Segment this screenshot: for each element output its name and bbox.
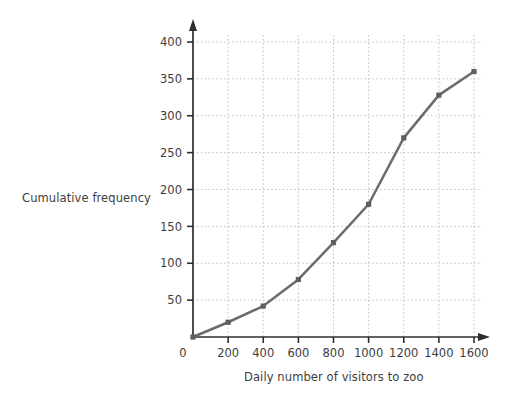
y-axis-ticks [187, 42, 193, 300]
data-point-marker [190, 334, 195, 339]
y-tick-label: 250 [160, 146, 182, 160]
y-tick-label: 100 [160, 256, 182, 270]
y-tick-label: 200 [160, 183, 182, 197]
x-tick-label: 1600 [459, 346, 488, 360]
y-axis-tick-labels: 50100150200250300350400 [160, 35, 182, 307]
y-tick-label: 50 [167, 293, 182, 307]
y-axis-arrowhead [189, 19, 197, 31]
data-point-marker [436, 93, 441, 98]
x-tick-label: 1200 [389, 346, 418, 360]
data-point-marker [261, 303, 266, 308]
data-point-marker [331, 240, 336, 245]
axis-lines [189, 19, 490, 341]
x-axis-tick-labels: 2004006008001000120014001600 [217, 346, 488, 360]
data-point-marker [226, 320, 231, 325]
x-tick-label: 400 [252, 346, 274, 360]
x-axis-arrowhead [478, 333, 490, 341]
data-point-marker [366, 202, 371, 207]
data-point-marker [471, 69, 476, 74]
x-tick-label: 600 [287, 346, 309, 360]
vertical-gridlines [228, 34, 474, 337]
data-point-marker [296, 277, 301, 282]
plot-area: 50100150200250300350400 2004006008001000… [0, 0, 520, 416]
y-tick-label: 150 [160, 220, 182, 234]
x-tick-label: 800 [323, 346, 345, 360]
x-tick-label: 1000 [354, 346, 383, 360]
y-tick-label: 300 [160, 109, 182, 123]
x-axis-ticks [228, 337, 474, 343]
y-tick-label: 400 [160, 35, 182, 49]
x-tick-label: 1400 [424, 346, 453, 360]
data-point-marker [401, 135, 406, 140]
origin-label: 0 [179, 346, 186, 360]
x-tick-label: 200 [217, 346, 239, 360]
cumulative-frequency-chart: Cumulative frequency Daily number of vis… [0, 0, 520, 416]
y-tick-label: 350 [160, 72, 182, 86]
